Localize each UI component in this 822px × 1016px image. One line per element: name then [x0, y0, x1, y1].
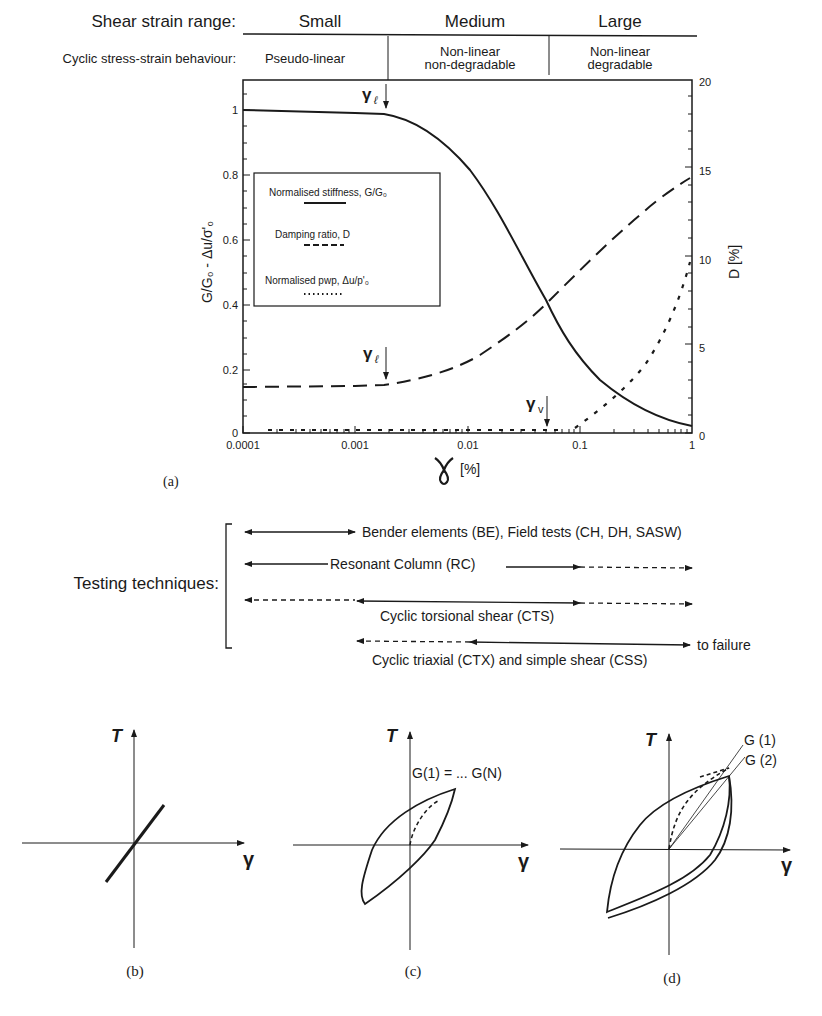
y-tick-0.4: 0.4 — [223, 299, 238, 311]
gamma-label: γ — [243, 848, 255, 870]
svg-text:ℓ: ℓ — [374, 353, 379, 365]
y-tick-0: 0 — [232, 427, 238, 439]
range-arrow-ctx — [470, 642, 690, 645]
x-tick-labels: 0.0001 0.001 0.01 0.1 1 — [226, 439, 695, 451]
technique-ctx-css: Cyclic triaxial (CTX) and simple shear (… — [372, 652, 647, 668]
figure-canvas: Shear strain range: Small Medium Large C… — [0, 0, 822, 1016]
right-axis-label: D [%] — [726, 245, 742, 279]
left-axis-label: G/G₀ - Δu/σ'₀ — [199, 221, 215, 303]
gamma-label: γ — [518, 850, 530, 872]
d-tick-0: 0 — [699, 430, 705, 442]
range-arrow-ctx-left-dashed — [357, 641, 470, 642]
y-tick-0.6: 0.6 — [223, 234, 238, 246]
range-arrow-cts-right-dashed — [580, 603, 692, 604]
chart-a: 0 0.2 0.4 0.6 0.8 1 G/G₀ - Δu/σ'₀ — [163, 76, 742, 490]
right-y-tick-labels: 0 5 10 15 20 — [699, 76, 711, 442]
legend-label-pwp: Normalised pwp, Δu/p'₀ — [265, 275, 369, 286]
loop-d: T γ G (1) G (2) (d) — [560, 730, 793, 987]
annotation-gamma-t-top: γ ℓ — [362, 84, 386, 108]
behaviour-pseudo-linear: Pseudo-linear — [265, 51, 346, 66]
technique-cts: Cyclic torsional shear (CTS) — [380, 608, 554, 624]
to-failure-label: to failure — [697, 637, 751, 653]
x-tick-0.0001: 0.0001 — [226, 439, 260, 451]
x-tick-0.01: 0.01 — [457, 439, 478, 451]
panel-label-c: (c) — [405, 963, 422, 980]
x-tick-1: 1 — [689, 439, 695, 451]
d-tick-15: 15 — [699, 165, 711, 177]
gamma-symbol-icon — [435, 458, 453, 484]
behaviour-nonlinear-nondeg-2: non-degradable — [424, 57, 515, 72]
hysteresis-loop — [361, 789, 455, 904]
hysteresis-loop-1 — [607, 776, 730, 912]
x-tick-0.1: 0.1 — [572, 439, 587, 451]
x-axis-label: [%] — [435, 458, 480, 484]
svg-text:γ: γ — [362, 85, 372, 104]
backbone-tip — [700, 768, 729, 777]
annotation-gamma-v: γ v — [526, 394, 547, 426]
g2-annotation: G (2) — [745, 752, 777, 768]
svg-text:v: v — [538, 403, 544, 415]
tau-label: T — [111, 726, 124, 746]
panel-label-a: (a) — [163, 474, 179, 490]
panel-label-d: (d) — [663, 970, 681, 987]
loop-c: T γ G(1) = ... G(N) (c) — [293, 726, 530, 980]
range-arrow-cts — [357, 601, 580, 603]
strain-range-medium: Medium — [445, 12, 505, 31]
left-y-ticks — [243, 94, 250, 433]
legend-label-damping: Damping ratio, D — [275, 229, 350, 240]
legend-label-stiffness: Normalised stiffness, G/G₀ — [269, 187, 387, 198]
gamma-label: γ — [781, 854, 793, 876]
strain-range-small: Small — [299, 12, 342, 31]
annotation-gamma-t-damping: γ ℓ — [363, 344, 386, 379]
header-divider — [243, 34, 697, 36]
left-y-tick-labels: 0 0.2 0.4 0.6 0.8 1 — [223, 104, 238, 439]
d-tick-20: 20 — [699, 76, 711, 88]
loop-b: T γ (b) — [22, 726, 255, 980]
bracket — [226, 524, 232, 648]
y-tick-1: 1 — [232, 104, 238, 116]
behaviour-label: Cyclic stress-strain behaviour: — [63, 51, 236, 66]
testing-techniques: Testing techniques: Bender elements (BE)… — [73, 524, 750, 668]
svg-text:γ: γ — [363, 344, 373, 363]
d-tick-5: 5 — [699, 342, 705, 354]
legend: Normalised stiffness, G/G₀ Damping ratio… — [254, 173, 440, 306]
panel-label-b: (b) — [126, 963, 144, 980]
behaviour-nonlinear-deg-2: degradable — [587, 57, 652, 72]
strain-range-label: Shear strain range: — [91, 12, 236, 31]
range-arrow-rc-dashed — [580, 567, 692, 568]
x-axis-unit: [%] — [460, 461, 480, 477]
header: Shear strain range: Small Medium Large C… — [63, 12, 697, 80]
tau-label: T — [645, 730, 658, 750]
g1-annotation: G (1) — [744, 732, 776, 748]
technique-rc: Resonant Column (RC) — [330, 556, 476, 572]
svg-text:ℓ: ℓ — [373, 94, 378, 106]
technique-be: Bender elements (BE), Field tests (CH, D… — [362, 524, 682, 540]
tau-label: T — [386, 726, 399, 746]
y-tick-0.8: 0.8 — [223, 169, 238, 181]
testing-label: Testing techniques: — [73, 574, 219, 593]
x-tick-0.001: 0.001 — [341, 439, 369, 451]
g2-secant — [669, 757, 745, 849]
gamma-axis — [560, 849, 790, 850]
plot-frame — [243, 80, 692, 433]
strain-range-large: Large — [598, 12, 641, 31]
g-equal-annotation: G(1) = ... G(N) — [412, 765, 502, 781]
y-tick-0.2: 0.2 — [223, 364, 238, 376]
x-ticks — [243, 426, 687, 433]
d-tick-10: 10 — [699, 254, 711, 266]
series-stiffness — [243, 110, 692, 426]
svg-text:γ: γ — [526, 394, 536, 413]
